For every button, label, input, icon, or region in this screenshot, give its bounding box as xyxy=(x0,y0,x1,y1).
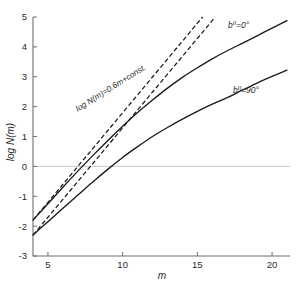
svg-text:bII=0°: bII=0° xyxy=(228,20,250,31)
chart-annotations: log N(m)=0.6m+const. xyxy=(74,63,147,114)
y-tick-label: -2 xyxy=(19,221,27,232)
y-tick-label: 2 xyxy=(22,101,27,112)
annotation-slope-equation: log N(m)=0.6m+const. xyxy=(74,63,147,114)
x-tick-label: 15 xyxy=(192,259,203,270)
series-euclidean-slope-line-upper xyxy=(33,17,203,220)
x-tick-label: 20 xyxy=(267,259,278,270)
dashed-slope-lines xyxy=(33,17,215,235)
x-tick-label: 5 xyxy=(45,259,50,270)
y-tick-label: -1 xyxy=(19,191,27,202)
x-axis-ticks xyxy=(48,252,272,256)
svg-text:bII=90°: bII=90° xyxy=(233,85,259,96)
y-tick-label: 4 xyxy=(22,41,27,52)
x-axis xyxy=(33,252,290,256)
plot-canvas: -3-2-1012345 5101520 log N(m) m bII=0° b… xyxy=(0,0,296,288)
y-tick-label: 5 xyxy=(22,11,27,22)
x-axis-title: m xyxy=(158,270,166,281)
x-tick-label: 10 xyxy=(117,259,128,270)
curve-label-b90: bII=90° xyxy=(233,85,259,96)
y-tick-label: 3 xyxy=(22,71,27,82)
y-tick-label: -3 xyxy=(19,250,27,261)
curve-label-b0-value: =0° xyxy=(236,20,250,30)
y-tick-label: 1 xyxy=(22,131,27,142)
chart-figure: -3-2-1012345 5101520 log N(m) m bII=0° b… xyxy=(0,0,296,288)
x-axis-tick-labels: 5101520 xyxy=(45,259,277,270)
curve-label-b90-value: =90° xyxy=(241,85,259,95)
y-tick-label: 0 xyxy=(22,161,27,172)
data-curves xyxy=(33,21,287,236)
y-axis-tick-labels: -3-2-1012345 xyxy=(19,11,27,261)
series-euclidean-slope-line-lower xyxy=(33,17,215,235)
y-axis-title: log N(m) xyxy=(5,123,16,161)
curve-label-b0: bII=0° xyxy=(228,20,250,31)
